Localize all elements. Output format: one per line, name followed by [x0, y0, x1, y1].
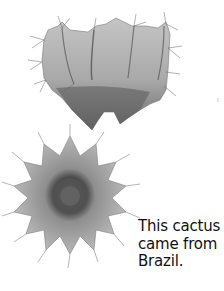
caption: This cactus came from Brazil.: [138, 218, 222, 271]
cactus-side-view: [28, 12, 182, 130]
caption-line-1: This cactus: [138, 218, 222, 236]
caption-line-3: Brazil.: [138, 253, 222, 271]
cactus-top-view: [2, 124, 140, 268]
faint-mark: [217, 98, 219, 102]
caption-line-2: came from: [138, 236, 222, 254]
